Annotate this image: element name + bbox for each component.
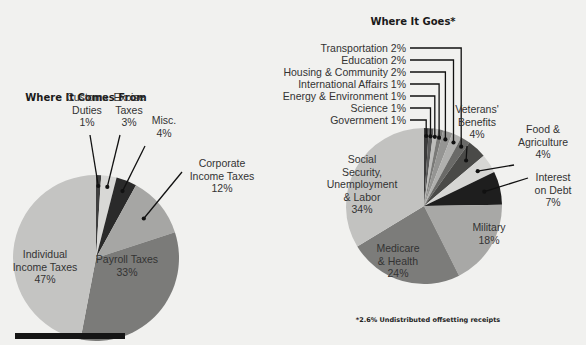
leader-dot-transportation <box>459 145 463 149</box>
slice-label-line: Housing & Community 2% <box>283 66 406 78</box>
leader-dot-interest-on-debt <box>482 190 486 194</box>
slice-label-customs-duties: CustomsDuties1% <box>66 91 107 128</box>
slice-label-line: Veterans' <box>455 103 498 115</box>
leader-dot-misc <box>120 189 124 193</box>
slice-label-food-agriculture: Food &Agriculture4% <box>518 123 568 160</box>
leader-dot-excise-taxes <box>105 185 109 189</box>
leader-dot-international-affairs <box>437 136 441 140</box>
budget-pie-charts: Where It Comes From CustomsDuties1%Excis… <box>0 0 586 345</box>
slice-label-line: Individual <box>23 248 67 260</box>
leader-dot-customs-duties <box>96 184 100 188</box>
leader-dot-housing-community <box>443 137 447 141</box>
slice-label-line: 33% <box>116 266 137 278</box>
income-pie-chart: Where It Comes From CustomsDuties1%Excis… <box>13 91 255 341</box>
slice-label-line: 24% <box>387 267 408 279</box>
leader-dot-education <box>451 140 455 144</box>
leader-dot-government <box>424 134 428 138</box>
slice-label-line: Government 1% <box>330 114 406 126</box>
slice-label-line: 47% <box>34 273 55 285</box>
slice-label-corporate-income-taxes: CorporateIncome Taxes12% <box>190 157 255 194</box>
slice-label-line: 18% <box>478 234 499 246</box>
slice-label-government: Government 1% <box>330 114 406 126</box>
slice-label-transportation: Transportation 2% <box>321 42 406 54</box>
slice-label-line: 4% <box>535 148 550 160</box>
slice-label-line: Security, <box>342 166 382 178</box>
slice-label-line: 4% <box>469 128 484 140</box>
slice-label-line: 7% <box>545 196 560 208</box>
spending-chart-title: Where It Goes* <box>370 16 456 27</box>
slice-label-line: Income Taxes <box>13 261 78 273</box>
slice-label-line: Unemployment <box>327 178 398 190</box>
slice-label-housing-community: Housing & Community 2% <box>283 66 406 78</box>
leader-dot-energy-environment <box>433 135 437 139</box>
slice-label-interest-on-debt: Intereston Debt7% <box>535 171 572 208</box>
slice-label-line: Benefits <box>458 116 496 128</box>
slice-label-line: Excise <box>114 91 145 103</box>
slice-label-line: Corporate <box>199 157 246 169</box>
slice-label-line: International Affairs 1% <box>298 78 406 90</box>
slice-label-line: Science 1% <box>351 102 406 114</box>
leader-dot-science <box>428 134 432 138</box>
slice-label-line: 1% <box>79 116 94 128</box>
slice-label-line: Taxes <box>115 104 142 116</box>
slice-label-line: 4% <box>156 127 171 139</box>
slice-label-line: & Health <box>378 255 418 267</box>
decorative-bar <box>15 333 125 339</box>
slice-label-line: Duties <box>72 104 102 116</box>
slice-label-line: Agriculture <box>518 136 568 148</box>
slice-label-line: Medicare <box>376 242 419 254</box>
leader-dot-food-agriculture <box>476 169 480 173</box>
slice-label-line: Food & <box>526 123 560 135</box>
slice-label-line: Military <box>472 221 506 233</box>
slice-label-line: Payroll Taxes <box>96 253 158 265</box>
spending-footnote: *2.6% Undistributed offsetting receipts <box>356 316 500 324</box>
slice-label-line: Income Taxes <box>190 170 255 182</box>
slice-label-international-affairs: International Affairs 1% <box>298 78 406 90</box>
slice-label-line: Energy & Environment 1% <box>283 90 406 102</box>
leader-line-veterans-benefits <box>466 146 467 161</box>
slice-label-energy-environment: Energy & Environment 1% <box>283 90 406 102</box>
slice-label-line: Transportation 2% <box>321 42 406 54</box>
slice-label-misc: Misc.4% <box>152 114 177 139</box>
slice-label-line: Social <box>348 153 377 165</box>
slice-label-excise-taxes: ExciseTaxes3% <box>114 91 145 128</box>
slice-label-line: Education 2% <box>341 54 406 66</box>
slice-label-line: Misc. <box>152 114 177 126</box>
leader-dot-veterans-benefits <box>464 158 468 162</box>
slice-label-science: Science 1% <box>351 102 406 114</box>
leader-dot-corporate-income-taxes <box>142 216 146 220</box>
slice-label-education: Education 2% <box>341 54 406 66</box>
slice-label-line: Customs <box>66 91 107 103</box>
slice-label-line: 3% <box>121 116 136 128</box>
slice-label-line: 34% <box>351 203 372 215</box>
slice-label-line: Interest <box>535 171 570 183</box>
slice-label-line: & Labor <box>344 191 381 203</box>
spending-pie-chart: Where It Goes* Government 1%Science 1%En… <box>283 16 572 324</box>
slice-label-line: on Debt <box>535 184 572 196</box>
slice-label-line: 12% <box>211 182 232 194</box>
